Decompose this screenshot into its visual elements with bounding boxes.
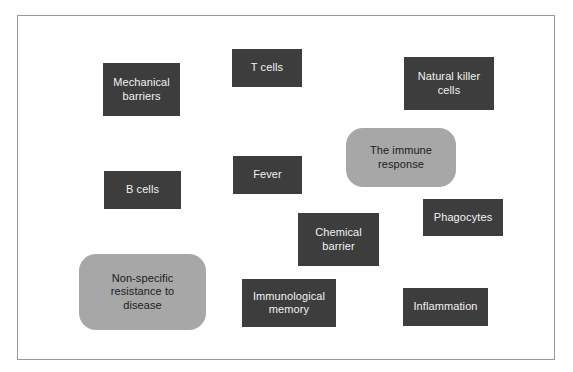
node-non-specific-resistance-to-disease[interactable]: Non-specific resistance to disease [79, 254, 206, 330]
diagram-canvas: Mechanical barriersT cellsNatural killer… [0, 0, 573, 372]
node-fever[interactable]: Fever [233, 156, 302, 194]
diagram-frame: Mechanical barriersT cellsNatural killer… [17, 15, 555, 360]
node-the-immune-response[interactable]: The immune response [346, 128, 456, 187]
node-label-the-immune-response: The immune response [346, 144, 456, 171]
node-label-immunological-memory: Immunological memory [242, 290, 336, 317]
node-label-mechanical-barriers: Mechanical barriers [103, 76, 180, 103]
node-label-inflammation: Inflammation [403, 300, 488, 313]
node-b-cells[interactable]: B cells [104, 171, 181, 209]
node-label-non-specific-resistance-to-disease: Non-specific resistance to disease [79, 272, 206, 312]
node-label-fever: Fever [233, 168, 302, 181]
node-label-t-cells: T cells [232, 61, 302, 74]
node-t-cells[interactable]: T cells [232, 49, 302, 87]
node-immunological-memory[interactable]: Immunological memory [242, 279, 336, 327]
node-label-b-cells: B cells [104, 183, 181, 196]
node-label-phagocytes: Phagocytes [423, 211, 503, 224]
node-inflammation[interactable]: Inflammation [403, 288, 488, 326]
node-mechanical-barriers[interactable]: Mechanical barriers [103, 63, 180, 116]
node-label-chemical-barrier: Chemical barrier [298, 226, 379, 253]
node-label-natural-killer-cells: Natural killer cells [404, 70, 494, 97]
node-phagocytes[interactable]: Phagocytes [423, 199, 503, 236]
node-natural-killer-cells[interactable]: Natural killer cells [404, 57, 494, 110]
node-chemical-barrier[interactable]: Chemical barrier [298, 213, 379, 266]
